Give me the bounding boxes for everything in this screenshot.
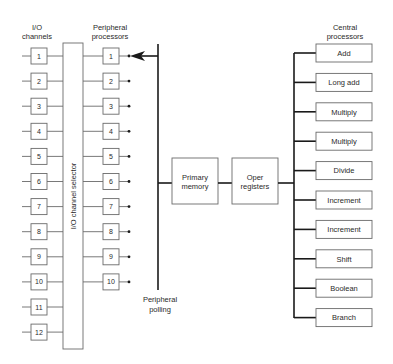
pp-port-dot-icon [128, 80, 131, 83]
io-channel-number: 3 [37, 103, 41, 110]
io-channel-number: 4 [37, 128, 41, 135]
central-processors-group: AddLong addMultiplyMultiplyDivideIncreme… [294, 44, 372, 327]
peripheral-processor-number: 1 [109, 53, 113, 60]
central-processor-label: Multiply [331, 108, 357, 117]
peripheral-processor-number: 7 [109, 203, 113, 210]
peripheral-processor-number: 9 [109, 253, 113, 260]
central-processor-label: Divide [334, 166, 355, 175]
io-channel-selector-label: I/O channel selector [69, 162, 78, 229]
central-processor-label: Increment [327, 196, 361, 205]
pp-port-dot-icon [128, 255, 131, 258]
header-io-channels-line2: channels [22, 32, 52, 41]
central-processor-label: Add [337, 49, 350, 58]
io-channel-number: 5 [37, 153, 41, 160]
pp-port-dot-icon [128, 155, 131, 158]
io-channel-number: 1 [37, 53, 41, 60]
oper-registers-label-line1: Oper [247, 173, 264, 182]
central-processor-label: Long add [328, 78, 359, 87]
pp-port-dot-icon [128, 281, 131, 284]
header-peripheral-processors-line1: Peripheral [93, 23, 128, 32]
peripheral-processor-number: 10 [107, 278, 115, 285]
io-channel-number: 7 [37, 203, 41, 210]
peripheral-polling-label-line1: Peripheral [143, 295, 178, 304]
header-peripheral-processors-line2: processors [92, 32, 129, 41]
pp-port-dot-icon [128, 55, 131, 58]
pp-port-dot-icon [128, 130, 131, 133]
header-central-processors-line1: Central [333, 23, 358, 32]
peripheral-processor-number: 6 [109, 178, 113, 185]
pp-port-dot-icon [128, 105, 131, 108]
io-channel-number: 8 [37, 228, 41, 235]
header-io-channels-line1: I/O [32, 23, 42, 32]
central-processor-label: Boolean [330, 284, 358, 293]
io-channel-number: 2 [37, 78, 41, 85]
central-processor-label: Multiply [331, 137, 357, 146]
central-processor-label: Branch [332, 313, 356, 322]
peripheral-processor-number: 8 [109, 228, 113, 235]
cdc-architecture-diagram: I/O channels Peripheral processors Centr… [0, 0, 393, 364]
oper-registers-label-line2: registers [241, 182, 270, 191]
peripheral-processor-number: 2 [109, 78, 113, 85]
central-processor-label: Shift [336, 255, 352, 264]
io-channels-group: 123456789101112 [22, 48, 63, 340]
primary-memory-label-line1: Primary [182, 173, 208, 182]
peripheral-processor-number: 5 [109, 153, 113, 160]
peripheral-processor-number: 3 [109, 103, 113, 110]
peripheral-polling-label-line2: polling [149, 305, 171, 314]
pp-port-dot-icon [128, 180, 131, 183]
primary-memory-label-line2: memory [181, 182, 208, 191]
io-channel-number: 6 [37, 178, 41, 185]
central-processor-label: Increment [327, 225, 361, 234]
io-channel-number: 12 [35, 329, 43, 336]
header-central-processors-line2: processors [327, 32, 364, 41]
io-channel-number: 9 [37, 253, 41, 260]
pp-port-dot-icon [128, 230, 131, 233]
io-channel-number: 10 [35, 278, 43, 285]
peripheral-processor-number: 4 [109, 128, 113, 135]
pp-port-dot-icon [128, 205, 131, 208]
io-channel-number: 11 [35, 304, 42, 311]
peripheral-processors-group: 12345678910 [83, 48, 130, 290]
